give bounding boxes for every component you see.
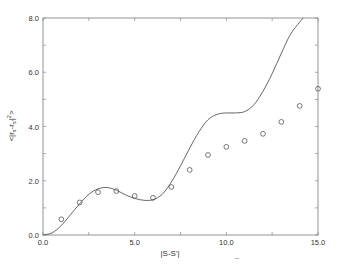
y-axis-label: <|rs-rs'|2> — [6, 110, 17, 141]
svg-text:5.0: 5.0 — [129, 238, 139, 247]
data-point — [224, 144, 229, 149]
data-point — [187, 168, 192, 173]
axis-ticks — [43, 18, 318, 235]
data-point — [169, 185, 174, 190]
data-point — [242, 138, 247, 143]
svg-text:8.0: 8.0 — [29, 14, 39, 23]
svg-text:6.0: 6.0 — [29, 68, 39, 77]
data-point — [297, 103, 302, 108]
svg-text:4.0: 4.0 — [29, 123, 39, 132]
svg-text:<|rs-rs'|2>: <|rs-rs'|2> — [6, 110, 17, 141]
data-point — [261, 131, 266, 136]
x-axis-label: |S-S'| — [160, 249, 179, 258]
stray-mark: ¯ — [234, 257, 240, 266]
data-point — [279, 119, 284, 124]
chart: 0.05.010.015.00.02.04.06.08.0 |S-S'| <|r… — [0, 0, 341, 267]
data-point — [96, 190, 101, 195]
data-points — [59, 86, 320, 221]
data-point — [206, 153, 211, 158]
svg-text:15.0: 15.0 — [311, 238, 326, 247]
svg-text:2.0: 2.0 — [29, 177, 39, 186]
data-point — [59, 217, 64, 222]
data-point — [132, 194, 137, 199]
svg-text:10.0: 10.0 — [219, 238, 234, 247]
svg-text:0.0: 0.0 — [29, 231, 39, 240]
plot-frame — [43, 18, 318, 235]
svg-text:0.0: 0.0 — [38, 238, 48, 247]
